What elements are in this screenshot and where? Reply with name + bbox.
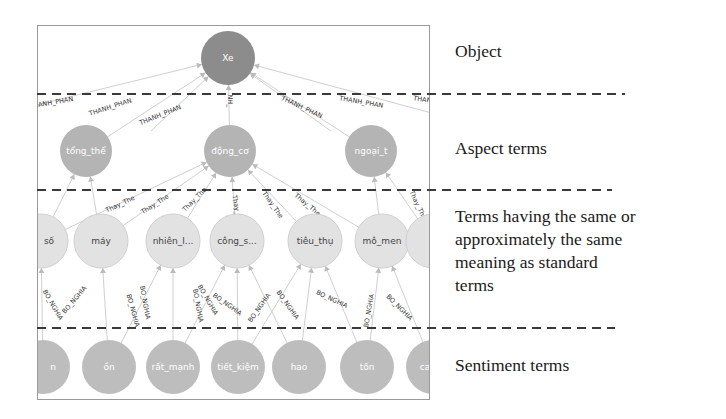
- sentiment-node-label: rất_mạnh: [152, 362, 195, 373]
- synonym-node-label: số: [44, 236, 55, 246]
- synonym-node[interactable]: công_s...: [210, 214, 264, 268]
- sentiment-node-label: ca: [420, 362, 430, 372]
- edge-label-thanh-phan: NH_: [226, 95, 234, 109]
- edge-thanh-phan: [38, 58, 228, 121]
- arrowhead-icon: [372, 177, 378, 182]
- synonym-node[interactable]: máy: [74, 214, 128, 268]
- edge-label-bo-nghia: BO_NGHIA: [275, 289, 301, 322]
- sentiment-node[interactable]: ca: [406, 340, 430, 394]
- edge-label-thanh-phan: THANH_: [412, 94, 430, 106]
- aspect-node[interactable]: động_cơ: [204, 125, 256, 177]
- aspect-node-label: tổng_thể: [66, 146, 106, 156]
- object-node[interactable]: Xe: [201, 31, 255, 85]
- arrowhead-icon: [170, 268, 176, 273]
- arrowhead-icon: [386, 172, 391, 178]
- synonym-node-label: tiêu_thụ: [297, 236, 334, 247]
- layer-label-synonym: Terms having the same or approximately t…: [455, 205, 636, 297]
- edge-label-thay-the: Thay_The: [139, 193, 171, 217]
- edge-label-bo-nghia: BO_NGHIA: [246, 291, 272, 324]
- synonym-node-label: công_s...: [217, 236, 257, 246]
- aspect-node-label: ngoại_t: [355, 146, 388, 157]
- arrowhead-icon: [200, 73, 206, 78]
- layer-label-synonym-line: approximately the same: [455, 228, 636, 251]
- object-node-label: Xe: [222, 53, 234, 63]
- layer-label-object-text: Object: [455, 41, 502, 61]
- arrowhead-icon: [254, 63, 260, 69]
- sentiment-node-label: hao: [291, 362, 308, 372]
- synonym-node-label: mô_men: [363, 236, 402, 246]
- arrowhead-icon: [100, 268, 106, 273]
- edge-label-bo-nghia: BO_NGHIA: [41, 288, 65, 322]
- layer-label-aspect: Aspect terms: [455, 137, 547, 160]
- edge-label-thay-the: Thay_The: [103, 194, 136, 215]
- sentiment-node[interactable]: rất_mạnh: [146, 340, 200, 394]
- edge-label-thanh-phan: THANH_PHAN: [137, 103, 182, 127]
- layer-label-synonym-line: terms: [455, 274, 636, 297]
- synonym-node[interactable]: số: [38, 214, 68, 268]
- aspect-node[interactable]: ngoại_t: [345, 125, 397, 177]
- arrowhead-icon: [39, 268, 45, 273]
- sentiment-node-label: ồn: [103, 362, 114, 372]
- layer-label-object: Object: [455, 40, 502, 63]
- arrowhead-icon: [308, 268, 314, 273]
- arrowhead-icon: [196, 63, 202, 69]
- sentiment-node-label: n: [50, 362, 56, 372]
- edge-label-thay-the: Thay_The: [180, 186, 208, 214]
- synonym-node[interactable]: mô_men: [355, 214, 409, 268]
- layer-label-synonym-line: meaning as standard: [455, 251, 636, 274]
- layer-label-sentiment-text: Sentiment terms: [455, 355, 569, 375]
- arrowhead-icon: [375, 268, 381, 273]
- synonym-node[interactable]: nhiên_l...: [146, 214, 200, 268]
- synonym-node-label: máy: [91, 236, 111, 246]
- sentiment-node[interactable]: tốn: [340, 340, 394, 394]
- synonym-node-circle: [406, 214, 430, 268]
- layer-label-synonym-line: Terms having the same or: [455, 205, 636, 228]
- synonym-node[interactable]: [406, 214, 430, 268]
- arrowhead-icon: [229, 177, 235, 182]
- edge-label-thay-the: Thay_The: [292, 191, 322, 218]
- aspect-node[interactable]: tổng_thể: [60, 125, 112, 177]
- edge-label-thanh-phan: ANH_PHAN: [38, 95, 74, 109]
- sentiment-node[interactable]: tiết_kiệm: [211, 340, 265, 394]
- sentiment-node[interactable]: n: [38, 340, 70, 394]
- edge-label-thanh-phan: THANH_PHAN: [279, 94, 324, 121]
- arrowhead-icon: [234, 268, 240, 273]
- layer-label-aspect-text: Aspect terms: [455, 138, 547, 158]
- edge-label-bo-nghia: BO_NGHIA: [125, 293, 142, 328]
- edge-label-bo-nghia: BO_NGHIA: [315, 288, 350, 310]
- diagram-canvas: ANH_PHANTHANH_PHANTHANH_PHANNH_THANH_PHA…: [0, 0, 726, 419]
- layer-label-sentiment: Sentiment terms: [455, 354, 569, 377]
- edge-label-bo-nghia: BO_NGHIA: [385, 293, 415, 323]
- sentiment-node[interactable]: hao: [272, 340, 326, 394]
- edge-label-thanh-phan: THANH_PHAN: [338, 94, 384, 110]
- aspect-node-label: động_cơ: [211, 146, 249, 156]
- arrowhead-icon: [203, 166, 209, 171]
- graph-svg: ANH_PHANTHANH_PHANTHANH_PHANNH_THANH_PHA…: [38, 26, 430, 400]
- sentiment-node-label: tiết_kiệm: [217, 362, 259, 372]
- arrowhead-icon: [226, 85, 232, 90]
- sentiment-node-label: tốn: [360, 362, 375, 372]
- sentiment-node[interactable]: ồn: [82, 340, 136, 394]
- edge-label-thanh-phan: THANH_PHAN: [87, 96, 133, 118]
- graph-frame: ANH_PHANTHANH_PHANTHANH_PHANNH_THANH_PHA…: [37, 25, 430, 400]
- synonym-node-label: nhiên_l...: [153, 236, 194, 246]
- arrowhead-icon: [88, 177, 94, 182]
- edge-label-bo-nghia: BO_NGHIA: [61, 284, 89, 316]
- synonym-node[interactable]: tiêu_thụ: [288, 214, 342, 268]
- edge-label-bo-nghia: BO_NGHIA: [138, 285, 152, 320]
